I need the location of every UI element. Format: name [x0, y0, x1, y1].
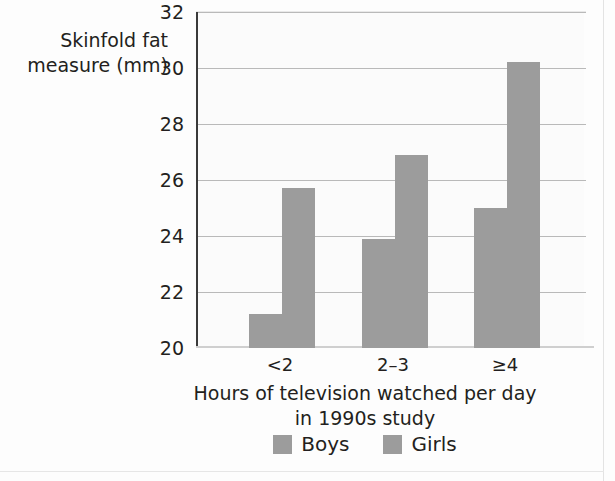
gridline: [198, 12, 586, 13]
x-axis-tick-label: 2–3: [348, 354, 438, 375]
bar-boys-1: [249, 314, 282, 348]
y-axis-tick-label: 20: [144, 339, 184, 358]
y-axis-tick-label: 24: [144, 227, 184, 246]
page-bottom-border: [0, 471, 604, 472]
legend-label: Boys: [301, 434, 349, 454]
y-axis-title-line-1: Skinfold fat: [8, 28, 168, 53]
legend-swatch-icon: [273, 435, 292, 454]
legend-item-girls: Girls: [383, 434, 456, 454]
legend-item-boys: Boys: [273, 434, 349, 454]
bar-boys-3: [474, 208, 507, 348]
x-axis-title-line-2: in 1990s study: [150, 406, 580, 431]
bar-girls-2: [395, 155, 428, 348]
bar-girls-3: [507, 62, 540, 348]
y-axis-tick-label: 32: [144, 3, 184, 22]
bar-boys-2: [362, 239, 395, 348]
x-axis-tick-label: <2: [235, 354, 325, 375]
y-axis-tick-label: 30: [144, 59, 184, 78]
legend-swatch-icon: [383, 435, 402, 454]
x-axis-title-line-1: Hours of television watched per day: [150, 381, 580, 406]
y-axis-tick-label: 22: [144, 283, 184, 302]
x-axis-title: Hours of television watched per day in 1…: [150, 381, 580, 431]
bar-girls-1: [282, 188, 315, 348]
chart-page: Skinfold fat measure (mm) 32302826242220…: [0, 0, 615, 481]
y-axis-tick-label: 28: [144, 115, 184, 134]
legend-label: Girls: [411, 434, 456, 454]
page-right-border: [603, 0, 604, 481]
plot-area: [196, 12, 584, 348]
y-axis-tick-label: 26: [144, 171, 184, 190]
x-axis-tick-label: ≥4: [460, 354, 550, 375]
chart-legend: BoysGirls: [150, 434, 580, 454]
